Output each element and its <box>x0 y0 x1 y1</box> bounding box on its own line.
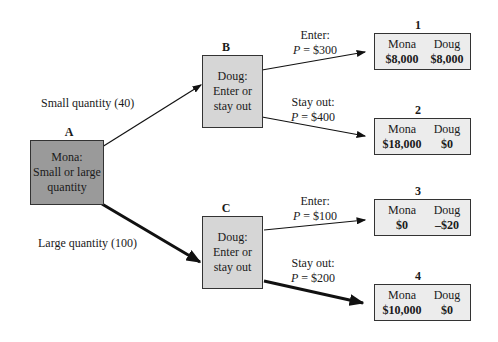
edge-label-small: Small quantity (40) <box>41 96 134 111</box>
outcome-number: 1 <box>408 18 428 33</box>
payoff-value: $18,000 <box>379 137 425 152</box>
action-text: Enter: <box>293 194 337 209</box>
node-b-line: Doug: <box>213 69 252 84</box>
edge-small-quantity <box>102 85 201 147</box>
price-text: = $100 <box>300 209 337 223</box>
node-c-label: C <box>216 201 236 216</box>
outcome-box-3: Mona$0 Doug–$20 <box>374 199 471 236</box>
outcome-box-1: Mona$8,000 Doug$8,000 <box>374 33 471 70</box>
payoff-value: $8,000 <box>425 52 469 67</box>
outcome-number: 3 <box>408 184 428 199</box>
payoff-value: $8,000 <box>379 52 425 67</box>
edge-label-b-enter: Enter: P = $300 <box>293 28 337 58</box>
node-b-line: stay out <box>213 99 252 114</box>
edge-label-large: Large quantity (100) <box>38 236 137 251</box>
payoff-value: $0 <box>425 137 469 152</box>
player-name: Mona <box>379 288 425 303</box>
player-name: Mona <box>379 122 425 137</box>
outcome-box-4: Mona$10,000 Doug$0 <box>374 284 471 321</box>
outcome-box-2: Mona$18,000 Doug$0 <box>374 118 471 155</box>
node-c-line: Doug: <box>213 230 252 245</box>
player-name: Doug <box>425 37 469 52</box>
player-name: Mona <box>379 203 425 218</box>
node-b-label: B <box>216 40 236 55</box>
price-text: = $400 <box>298 110 335 124</box>
edge-label-c-enter: Enter: P = $100 <box>293 194 337 224</box>
edge-large-quantity <box>102 204 200 262</box>
node-a-line: quantity <box>33 180 101 195</box>
payoff-value: $0 <box>379 218 425 233</box>
node-c-line: stay out <box>213 260 252 275</box>
player-name: Doug <box>425 203 469 218</box>
edge-label-c-stay: Stay out: P = $200 <box>291 256 335 286</box>
node-c-line: Enter or <box>213 245 252 260</box>
price-text: = $200 <box>298 271 335 285</box>
player-name: Doug <box>425 122 469 137</box>
player-name: Mona <box>379 37 425 52</box>
action-text: Enter: <box>293 28 337 43</box>
payoff-value: $0 <box>425 303 469 318</box>
payoff-value: $10,000 <box>379 303 425 318</box>
outcome-number: 4 <box>408 269 428 284</box>
price-text: = $300 <box>300 43 337 57</box>
node-a-line: Small or large <box>33 165 101 180</box>
edge-label-b-stay: Stay out: P = $400 <box>291 95 335 125</box>
node-a: Mona: Small or large quantity <box>30 140 104 205</box>
action-text: Stay out: <box>291 256 335 271</box>
node-b: Doug: Enter or stay out <box>202 55 263 128</box>
game-tree-diagram: A Mona: Small or large quantity B Doug: … <box>0 0 498 342</box>
action-text: Stay out: <box>291 95 335 110</box>
node-a-line: Mona: <box>33 150 101 165</box>
outcome-number: 2 <box>408 103 428 118</box>
player-name: Doug <box>425 288 469 303</box>
node-c: Doug: Enter or stay out <box>202 216 263 289</box>
node-a-label: A <box>59 125 79 140</box>
node-b-line: Enter or <box>213 84 252 99</box>
payoff-value: –$20 <box>425 218 469 233</box>
